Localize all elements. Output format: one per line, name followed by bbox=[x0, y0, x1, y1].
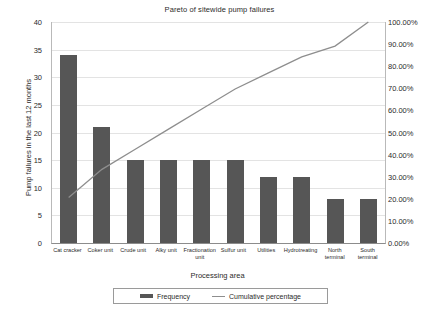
chart-title: Pareto of sitewide pump failures bbox=[0, 5, 439, 14]
y-axis-right-tick: 50.00% bbox=[388, 128, 413, 137]
y-axis-left: Pump failures in the last 12 months 0510… bbox=[0, 0, 48, 315]
x-axis-tick-label: Coker unit bbox=[84, 247, 117, 261]
x-axis-tick-label: Crude unit bbox=[117, 247, 150, 261]
legend-item-frequency: Frequency bbox=[140, 293, 190, 300]
legend-swatch-line-icon bbox=[212, 296, 225, 297]
x-axis-tick-label: Cat cracker bbox=[51, 247, 84, 261]
x-axis-tick-label: Alky unit bbox=[150, 247, 183, 261]
y-axis-right: 0.00%10.00%20.00%30.00%40.00%50.00%60.00… bbox=[388, 0, 439, 315]
y-axis-left-tick: 0 bbox=[38, 239, 42, 248]
y-axis-left-title: Pump failures in the last 12 months bbox=[24, 48, 33, 228]
legend-label-cumulative: Cumulative percentage bbox=[229, 293, 301, 300]
chart-legend: Frequency Cumulative percentage bbox=[113, 288, 328, 304]
y-axis-right-tick: 20.00% bbox=[388, 194, 413, 203]
y-axis-left-tick: 35 bbox=[34, 45, 42, 54]
y-axis-left-tick: 20 bbox=[34, 128, 42, 137]
legend-item-cumulative: Cumulative percentage bbox=[212, 293, 301, 300]
x-axis-tick-label: North terminal bbox=[318, 247, 351, 261]
y-axis-right-tick: 60.00% bbox=[388, 106, 413, 115]
y-axis-right-tick: 70.00% bbox=[388, 84, 413, 93]
y-axis-right-tick: 40.00% bbox=[388, 150, 413, 159]
plot-area bbox=[51, 22, 386, 244]
x-axis-title: Processing area bbox=[51, 271, 384, 280]
pareto-chart: Pareto of sitewide pump failures Pump fa… bbox=[0, 0, 439, 315]
y-axis-left-tick: 40 bbox=[34, 18, 42, 27]
x-axis-tick-label: Utilities bbox=[250, 247, 283, 261]
x-axis-tick-labels: Cat crackerCoker unitCrude unitAlky unit… bbox=[51, 247, 384, 261]
y-axis-right-tick: 100.00% bbox=[388, 18, 418, 27]
x-axis-tick-label: Sulfur unit bbox=[217, 247, 250, 261]
x-axis-tick-label: Fractionation unit bbox=[183, 247, 217, 261]
y-axis-left-tick: 15 bbox=[34, 156, 42, 165]
y-axis-left-tick: 5 bbox=[38, 211, 42, 220]
legend-label-frequency: Frequency bbox=[157, 293, 190, 300]
y-axis-left-tick: 10 bbox=[34, 183, 42, 192]
x-axis-tick-label: South terminal bbox=[351, 247, 384, 261]
y-axis-left-tick: 30 bbox=[34, 73, 42, 82]
y-axis-right-tick: 90.00% bbox=[388, 40, 413, 49]
y-axis-right-tick: 10.00% bbox=[388, 216, 413, 225]
x-axis-tick-label: Hydrotreating bbox=[283, 247, 319, 261]
y-axis-left-tick: 25 bbox=[34, 100, 42, 109]
legend-swatch-bar-icon bbox=[140, 294, 153, 298]
y-axis-right-tick: 30.00% bbox=[388, 172, 413, 181]
y-axis-right-tick: 80.00% bbox=[388, 62, 413, 71]
y-axis-right-tick: 0.00% bbox=[388, 239, 409, 248]
cumulative-line-series bbox=[52, 22, 385, 243]
